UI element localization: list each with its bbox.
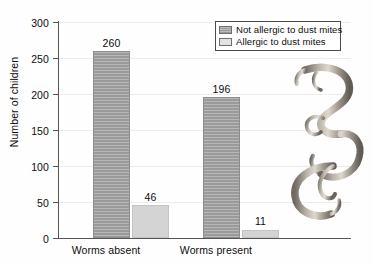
bar-chart: 260 46 196 11 300 250 200 150 100 50 xyxy=(0,0,373,264)
legend-item-allergic: Allergic to dust mites xyxy=(219,36,337,47)
x-label-worms-present: Worms present xyxy=(146,244,286,256)
y-tick-50: 50 xyxy=(0,202,373,203)
y-tick-200: 200 xyxy=(0,94,373,95)
bar-value-11: 11 xyxy=(237,215,284,227)
bar-worms-absent-not-allergic xyxy=(93,51,130,238)
y-tick-100: 100 xyxy=(0,166,373,167)
legend-label-allergic: Allergic to dust mites xyxy=(236,37,326,47)
legend: Not allergic to dust mites Allergic to d… xyxy=(215,21,341,51)
legend-swatch-icon-allergic xyxy=(219,38,232,46)
y-tick-250: 250 xyxy=(0,58,373,59)
y-tick-150: 150 xyxy=(0,130,373,131)
y-tick-0: 0 xyxy=(0,238,373,239)
bar-value-260: 260 xyxy=(88,37,135,49)
y-tick-label-0: 0 xyxy=(0,233,49,245)
legend-label-not-allergic: Not allergic to dust mites xyxy=(236,25,342,35)
y-axis-title: Number of children xyxy=(8,32,20,172)
legend-swatch-icon-not-allergic xyxy=(219,26,232,34)
y-tick-label-300: 300 xyxy=(0,17,49,29)
y-tick-label-50: 50 xyxy=(0,197,49,209)
legend-item-not-allergic: Not allergic to dust mites xyxy=(219,25,337,36)
bar-worms-present-not-allergic xyxy=(203,97,240,238)
bar-worms-present-allergic xyxy=(242,230,279,238)
bar-worms-absent-allergic xyxy=(132,205,169,238)
